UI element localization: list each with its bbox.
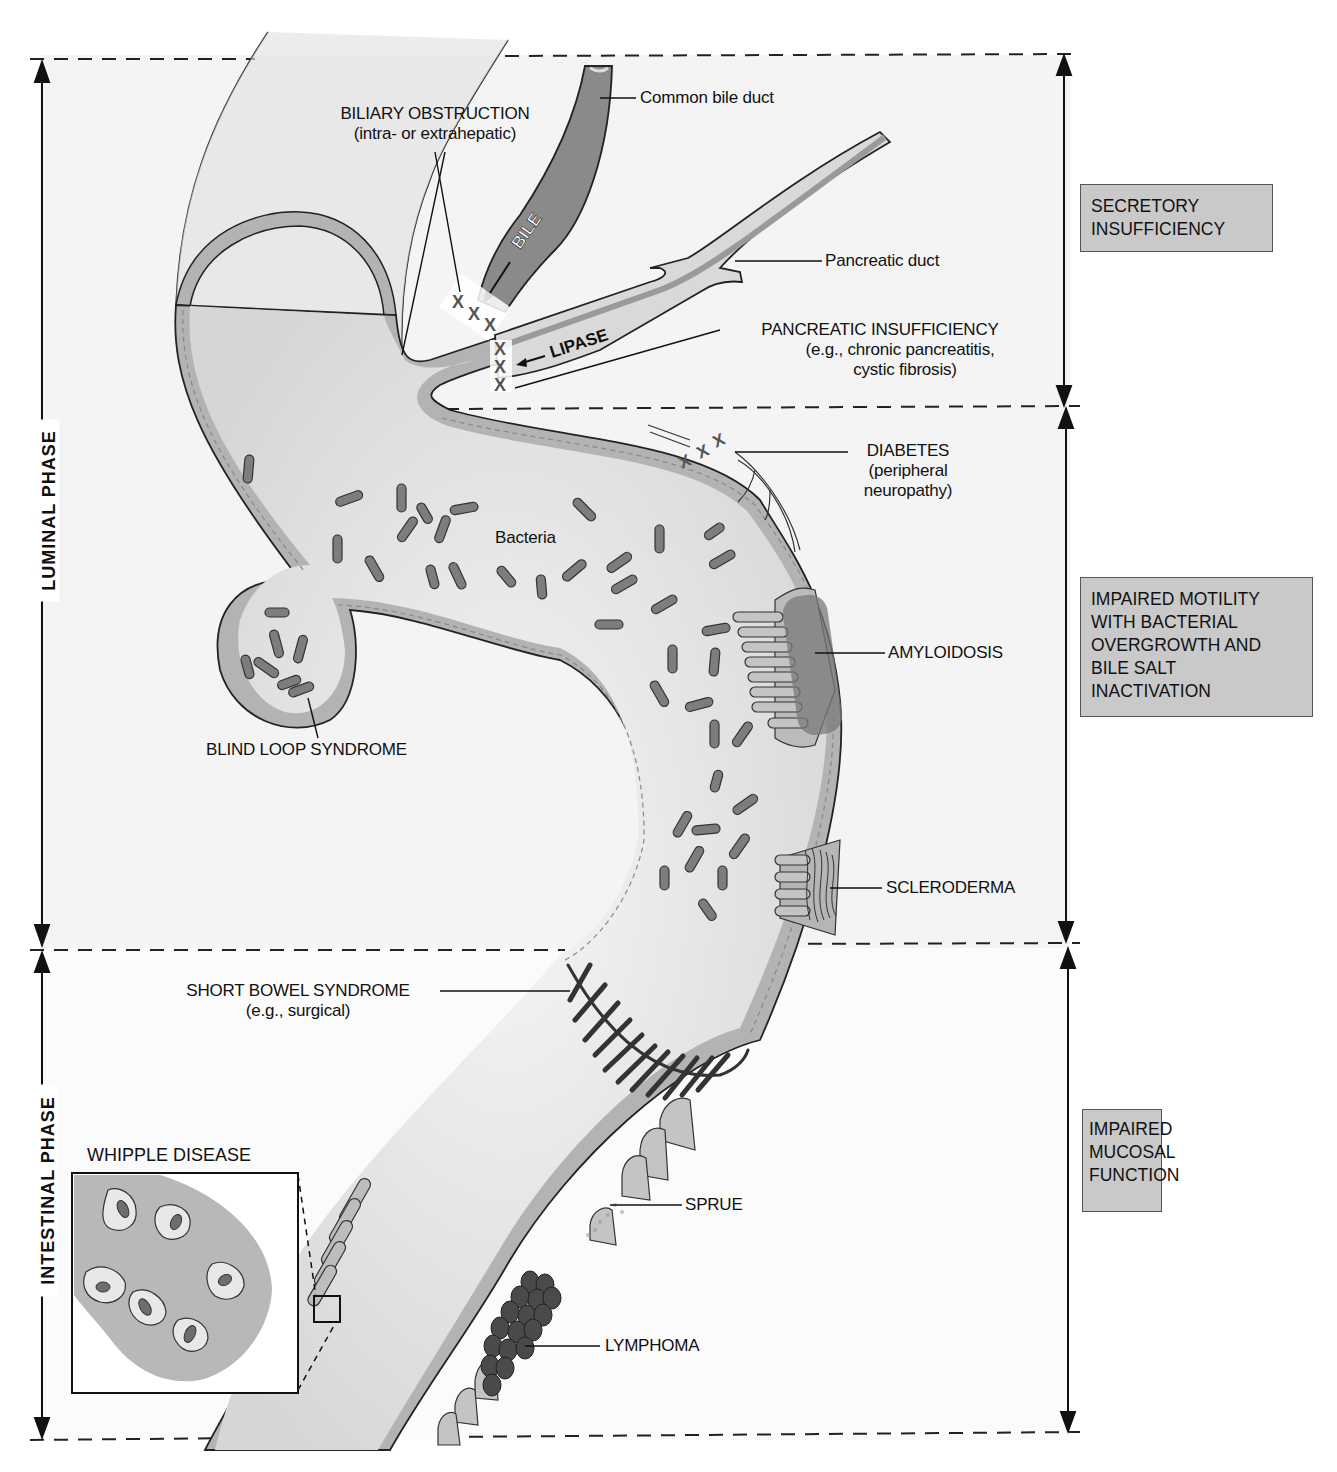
whipple-disease-label: WHIPPLE DISEASE xyxy=(87,1145,251,1166)
category-secretory-insufficiency: SECRETORY INSUFFICIENCY xyxy=(1080,184,1273,252)
pancreatic-insufficiency-title: PANCREATIC INSUFFICIENCY xyxy=(720,320,1040,340)
diabetes-label: DIABETES (peripheral neuropathy) xyxy=(848,441,968,501)
svg-text:X: X xyxy=(494,339,506,359)
intestinal-phase-label: INTESTINAL PHASE xyxy=(38,1085,59,1297)
biliary-obstruction-label: BILIARY OBSTRUCTION (intra- or extrahepa… xyxy=(225,104,645,144)
short-bowel-title: SHORT BOWEL SYNDROME xyxy=(150,981,446,1001)
amyloidosis-label: AMYLOIDOSIS xyxy=(888,643,1003,663)
category-line: BILE SALT xyxy=(1091,657,1302,680)
svg-text:X: X xyxy=(452,292,464,312)
svg-text:X: X xyxy=(494,357,506,377)
biliary-obstruction-title: BILIARY OBSTRUCTION xyxy=(225,104,645,124)
bacteria-label: Bacteria xyxy=(495,528,556,548)
biliary-obstruction-subtitle: (intra- or extrahepatic) xyxy=(225,124,645,144)
pancreatic-obstruction-marks: X X X xyxy=(490,339,512,395)
common-bile-duct-label: Common bile duct xyxy=(640,88,774,108)
category-impaired-mucosal-function: IMPAIRED MUCOSAL FUNCTION xyxy=(1082,1109,1162,1212)
diabetes-title: DIABETES xyxy=(848,441,968,461)
scleroderma-label: SCLERODERMA xyxy=(886,878,1015,898)
category-line: INACTIVATION xyxy=(1091,680,1302,703)
category-impaired-motility: IMPAIRED MOTILITY WITH BACTERIAL OVERGRO… xyxy=(1080,577,1313,717)
short-bowel-subtitle: (e.g., surgical) xyxy=(150,1001,446,1021)
blind-loop-syndrome-label: BLIND LOOP SYNDROME xyxy=(206,740,407,760)
pancreatic-duct-label: Pancreatic duct xyxy=(825,251,939,271)
svg-text:X: X xyxy=(484,315,496,335)
category-line: INSUFFICIENCY xyxy=(1091,218,1262,241)
lymphoma-label: LYMPHOMA xyxy=(605,1336,699,1356)
category-line: IMPAIRED xyxy=(1089,1118,1155,1141)
pancreatic-insufficiency-sub1: (e.g., chronic pancreatitis, xyxy=(720,340,1040,360)
category-line: WITH BACTERIAL xyxy=(1091,611,1302,634)
category-line: IMPAIRED MOTILITY xyxy=(1091,588,1302,611)
category-line: SECRETORY xyxy=(1091,195,1262,218)
whipple-inset xyxy=(72,1173,298,1393)
svg-text:X: X xyxy=(468,304,480,324)
category-line: FUNCTION xyxy=(1089,1164,1155,1187)
sprue-label: SPRUE xyxy=(685,1195,743,1215)
pancreatic-insufficiency-sub2: cystic fibrosis) xyxy=(720,360,1040,380)
short-bowel-syndrome-label: SHORT BOWEL SYNDROME (e.g., surgical) xyxy=(150,981,446,1021)
luminal-phase-label: LUMINAL PHASE xyxy=(39,420,60,602)
pancreatic-insufficiency-label: PANCREATIC INSUFFICIENCY (e.g., chronic … xyxy=(720,320,1040,380)
diabetes-sub2: neuropathy) xyxy=(848,481,968,501)
category-line: MUCOSAL xyxy=(1089,1141,1155,1164)
diabetes-sub1: (peripheral xyxy=(848,461,968,481)
svg-text:X: X xyxy=(494,375,506,395)
category-line: OVERGROWTH AND xyxy=(1091,634,1302,657)
